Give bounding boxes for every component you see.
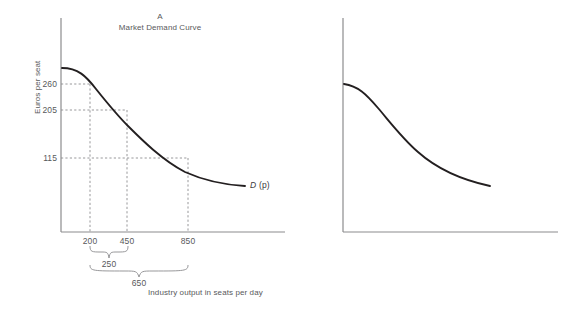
demand-curve-b [344,84,490,186]
y-tick-label-205-a: 205 [31,105,57,115]
panel-a-market-demand-curve: A Market Demand Curve Euros per seat Ind… [0,0,292,316]
x-tick-label-200-a: 200 [77,236,103,246]
y-tick-label-115-a: 115 [31,153,57,163]
panel-b-residual-demand-curve: B Air Lion's Residual Demand Curve When … [292,0,585,316]
demand-curve-a [62,68,245,186]
brace-250 [90,246,128,258]
x-tick-label-450-a: 450 [114,236,140,246]
panel-a-x-axis-label: Industry output in seats per day [148,288,263,297]
panel-b-plot [292,0,585,316]
brace-label-250: 250 [96,259,122,269]
y-tick-label-260-a: 260 [31,79,57,89]
panel-a-title: A Market Demand Curve [88,12,232,33]
brace-label-650: 650 [126,278,152,288]
x-tick-label-850-a: 850 [175,236,201,246]
curve-label-dp-a-rest: (p) [256,180,270,190]
curve-label-dp-a: D (p) [250,180,270,190]
